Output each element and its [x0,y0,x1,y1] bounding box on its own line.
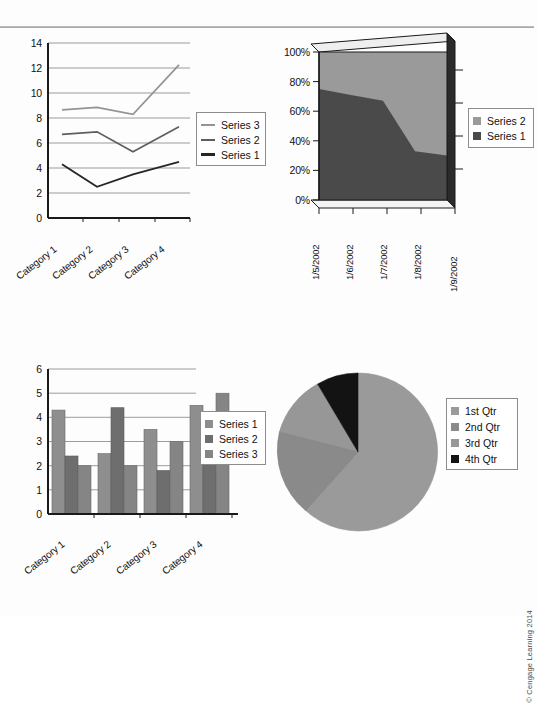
legend-line-swatch-series-3 [201,124,215,126]
area-chart-legend[interactable]: Series 2 Series 1 [468,108,534,148]
bar-c1-s2 [65,456,78,514]
area-chart-ytick-2: 40% [266,135,310,147]
bar-chart-ytick-1: 1 [18,484,42,496]
legend-item-4th-qtr[interactable]: 4th Qtr [451,451,511,467]
legend-box-swatch-3rd-qtr [451,439,459,447]
bar-c3-s3 [170,442,183,515]
legend-label-series-1: Series 1 [221,149,260,161]
legend-item-series-1[interactable]: Series 1 [201,147,259,162]
bar-chart-ytick-0: 0 [18,508,42,520]
bar-chart-legend[interactable]: Series 1 Series 2 Series 3 [200,411,266,465]
area-chart-y-ticks [313,52,319,200]
area-chart-xtick-3: 1/8/2002 [412,245,423,280]
legend-box-swatch-bar-series-3 [205,450,213,458]
legend-label-1st-qtr: 1st Qtr [465,405,497,417]
legend-label-series-3: Series 3 [221,119,260,131]
legend-box-swatch-bar-series-2 [205,435,213,443]
area-chart-ytick-4: 80% [266,76,310,88]
legend-label-series-2: Series 2 [221,134,260,146]
bar-c1-s1 [52,410,65,514]
line-chart-ytick-4: 8 [14,112,42,124]
bar-chart-ytick-2: 2 [18,460,42,472]
area-chart-xtick-4: 1/9/2002 [448,257,459,292]
legend-item-area-series-1[interactable]: Series 1 [473,128,527,143]
area-chart-ytick-3: 60% [266,105,310,117]
legend-item-3rd-qtr[interactable]: 3rd Qtr [451,435,511,451]
area-chart-top-face [311,33,455,52]
legend-label-bar-series-1: Series 1 [219,418,258,430]
line-chart-ytick-5: 10 [14,87,42,99]
bar-chart-svg [0,336,268,616]
legend-line-swatch-series-2 [201,139,215,141]
bar-c2-s3 [124,466,137,514]
legend-item-bar-series-1[interactable]: Series 1 [205,416,259,431]
line-chart-svg [0,30,268,325]
legend-label-3rd-qtr: 3rd Qtr [465,437,498,449]
legend-label-area-series-2: Series 2 [487,115,526,127]
area-chart-svg [262,30,538,325]
legend-item-series-3[interactable]: Series 3 [201,117,259,132]
line-chart-figure: 14 12 10 8 6 4 2 0 Category 1 Category 2… [0,30,268,325]
area-chart-ytick-0: 0% [266,194,310,206]
line-chart-ytick-7: 14 [14,37,42,49]
line-chart-gridlines [48,43,190,193]
bar-chart-ytick-4: 4 [18,411,42,423]
line-chart-ytick-6: 12 [14,62,42,74]
area-chart-ytick-5: 100% [266,46,310,58]
area-chart-figure: 100% 80% 60% 40% 20% 0% 1/5/2002 1/6/200… [262,30,538,325]
legend-label-bar-series-3: Series 3 [219,448,258,460]
line-series-3 [62,65,179,114]
line-chart-ytick-0: 0 [14,212,42,224]
line-chart-ytick-2: 4 [14,162,42,174]
legend-box-swatch-4th-qtr [451,455,459,463]
legend-box-swatch-2nd-qtr [451,423,459,431]
area-chart-x-ticks [319,208,455,214]
area-chart-xtick-1: 1/6/2002 [344,245,355,280]
legend-item-1st-qtr[interactable]: 1st Qtr [451,403,511,419]
pie-chart-svg [272,336,538,616]
bar-chart-ytick-6: 6 [18,363,42,375]
legend-item-area-series-2[interactable]: Series 2 [473,113,527,128]
bar-chart-ytick-5: 5 [18,387,42,399]
legend-item-2nd-qtr[interactable]: 2nd Qtr [451,419,511,435]
legend-label-bar-series-2: Series 2 [219,433,258,445]
pie-chart-figure: 1st Qtr 2nd Qtr 3rd Qtr 4th Qtr [272,336,538,616]
area-chart-ytick-1: 20% [266,164,310,176]
area-chart-xtick-0: 1/5/2002 [310,245,321,280]
bar-chart-figure: 6 5 4 3 2 1 0 Category 1 Category 2 Cate… [0,336,268,616]
bar-chart-ytick-3: 3 [18,435,42,447]
area-chart-xtick-2: 1/7/2002 [378,245,389,280]
line-chart-ytick-1: 2 [14,187,42,199]
legend-item-bar-series-2[interactable]: Series 2 [205,431,259,446]
bar-c1-s3 [78,466,91,514]
legend-item-series-2[interactable]: Series 2 [201,132,259,147]
bar-c3-s2 [157,471,170,515]
bar-c2-s1 [98,454,111,514]
copyright-notice: © Cengage Learning 2014 [525,610,534,703]
line-series-2 [62,127,179,152]
legend-label-4th-qtr: 4th Qtr [465,453,497,465]
page-top-rule [0,26,534,28]
area-chart-right-ticks [455,70,463,169]
legend-item-bar-series-3[interactable]: Series 3 [205,446,259,461]
bar-c3-s1 [144,429,157,514]
line-chart-legend[interactable]: Series 3 Series 2 Series 1 [196,112,266,166]
pie-chart-legend[interactable]: 1st Qtr 2nd Qtr 3rd Qtr 4th Qtr [446,398,518,470]
line-chart-ytick-3: 6 [14,137,42,149]
legend-label-2nd-qtr: 2nd Qtr [465,421,500,433]
legend-box-swatch-bar-series-1 [205,420,213,428]
legend-box-swatch-series-1 [473,132,481,140]
line-series-1 [62,162,179,187]
legend-label-area-series-1: Series 1 [487,130,526,142]
bar-c2-s2 [111,408,124,514]
area-chart-right-face [447,33,455,208]
legend-line-swatch-series-1 [201,153,215,156]
legend-box-swatch-series-2 [473,117,481,125]
area-chart-floor-face [311,200,455,208]
legend-box-swatch-1st-qtr [451,407,459,415]
